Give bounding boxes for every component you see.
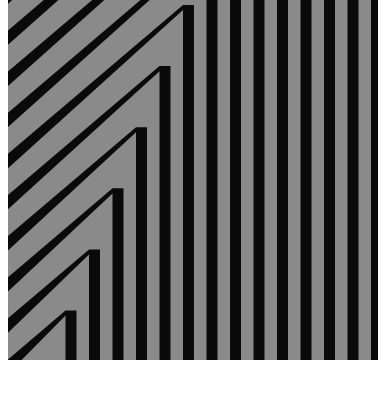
op-art-chevron-stripes	[8, 0, 378, 360]
